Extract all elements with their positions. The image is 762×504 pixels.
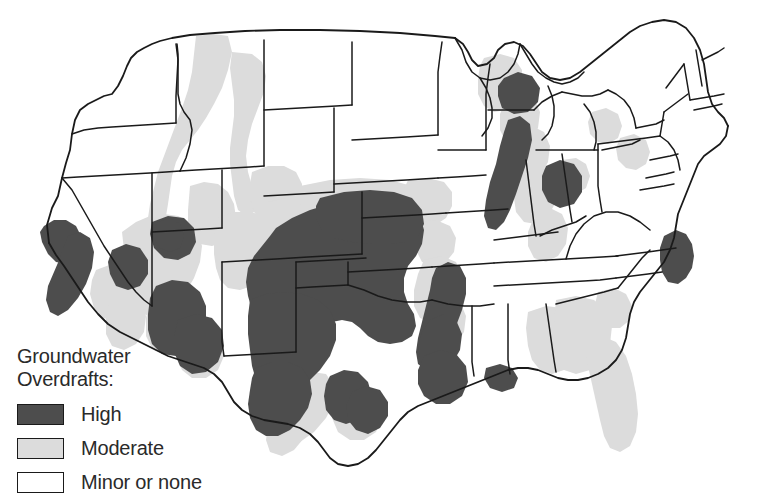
legend-label-minor: Minor or none bbox=[81, 471, 202, 494]
legend-swatch-high bbox=[17, 404, 64, 425]
legend-item-moderate[interactable]: Moderate bbox=[17, 431, 267, 465]
legend-swatch-moderate bbox=[17, 438, 64, 459]
legend-label-moderate: Moderate bbox=[81, 437, 164, 460]
map-legend: GroundwaterOverdrafts: High Moderate Min… bbox=[17, 345, 267, 499]
groundwater-overdraft-map-page: GroundwaterOverdrafts: High Moderate Min… bbox=[0, 0, 762, 504]
legend-item-high[interactable]: High bbox=[17, 397, 267, 431]
legend-swatch-minor bbox=[17, 472, 64, 493]
legend-title: GroundwaterOverdrafts: bbox=[17, 345, 267, 391]
legend-title-line1: Groundwater bbox=[17, 345, 130, 367]
legend-title-line2: Overdrafts: bbox=[17, 368, 114, 390]
legend-label-high: High bbox=[81, 403, 121, 426]
legend-item-minor[interactable]: Minor or none bbox=[17, 465, 267, 499]
legend-items: High Moderate Minor or none bbox=[17, 397, 267, 499]
